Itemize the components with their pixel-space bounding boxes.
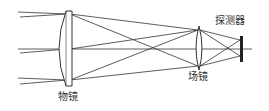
field-lens xyxy=(196,26,202,70)
objective-lens xyxy=(59,11,72,86)
objective-label: 物镜 xyxy=(58,92,78,102)
detector xyxy=(240,36,243,62)
detector-label: 探测器 xyxy=(215,16,245,26)
optical-diagram: 物镜 场镜 探测器 xyxy=(0,0,269,111)
field-lens-label: 场镜 xyxy=(188,72,208,82)
